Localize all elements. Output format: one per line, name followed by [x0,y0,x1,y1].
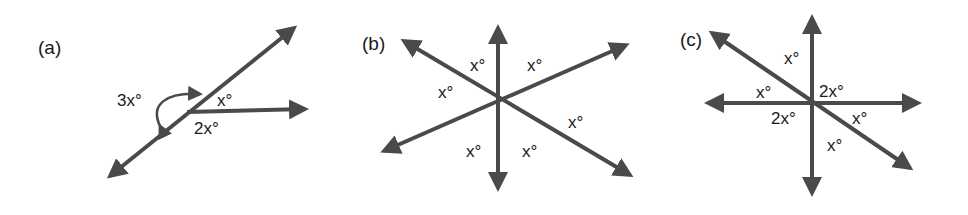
panel-c-angle-lower-right: x° [852,110,867,127]
panel-b-diagram [384,28,630,188]
panel-b-angle-bottom-right: x° [522,143,537,160]
panel-b-angle-top-left: x° [470,57,485,74]
panel-a-angle-x: x° [217,92,232,109]
panel-c-angle-top: x° [784,50,799,67]
panel-c-angle-upper-right: 2x° [819,83,844,100]
panel-b-diagonal-line-2 [384,45,626,151]
panel-a-ray [187,109,305,112]
panel-a-label: (a) [38,38,61,57]
panel-c-label: (c) [680,30,702,49]
panel-b-angle-bottom-left: x° [466,143,481,160]
panel-a-angle-2x: 2x° [194,120,219,137]
panel-b-angle-top-right: x° [527,57,542,74]
panel-c-angle-bottom: x° [827,137,842,154]
panel-c-diagram [708,18,918,193]
panel-b-label: (b) [362,34,385,53]
panel-c-angle-left: x° [756,84,771,101]
panel-b-angle-right: x° [568,114,583,131]
panel-a-angle-3x: 3x° [117,92,142,109]
angle-diagrams [0,0,968,215]
panel-b-diagonal-line-1 [404,41,630,175]
panel-c-angle-lower-left: 2x° [771,110,796,127]
panel-b-angle-left: x° [438,84,453,101]
